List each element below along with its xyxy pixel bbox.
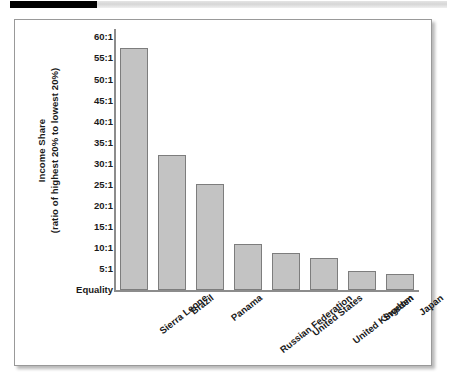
bar-slot (120, 29, 147, 290)
bar[interactable] (386, 274, 413, 290)
y-tick-label: Equality (61, 285, 113, 295)
bar[interactable] (272, 253, 299, 290)
y-tick-label: 45:1 (61, 96, 113, 106)
bar-slot (196, 29, 223, 290)
bar[interactable] (348, 271, 375, 290)
y-tick-label: 40:1 (61, 117, 113, 127)
x-tick-label: Panama (229, 292, 264, 323)
y-tick-label: 25:1 (61, 180, 113, 190)
y-tick-label: 55:1 (61, 53, 113, 63)
header-rules (0, 0, 460, 12)
bar-slot (386, 29, 413, 290)
bar[interactable] (196, 184, 223, 290)
x-tick-label: Japan (417, 292, 445, 318)
bar-slot (272, 29, 299, 290)
y-tick-label: 20:1 (61, 201, 113, 211)
y-tick-label: 15:1 (61, 222, 113, 232)
y-axis-title-line1: Income Share (36, 43, 49, 258)
y-tick-label: 30:1 (61, 159, 113, 169)
y-tick-label: 10:1 (61, 243, 113, 253)
x-tick-label: Brazil (189, 292, 216, 317)
y-tick-label: 35:1 (61, 138, 113, 148)
figure-panel: Income Share (ratio of highest 20% to lo… (14, 19, 432, 366)
bar-slot (348, 29, 375, 290)
black-rule (10, 1, 97, 8)
bar[interactable] (158, 155, 185, 290)
bar[interactable] (310, 258, 337, 290)
y-tick-label: 50:1 (61, 75, 113, 85)
gray-rule (97, 1, 447, 8)
bar[interactable] (234, 244, 261, 290)
bar-slot (310, 29, 337, 290)
x-tick-label: Sweden (381, 292, 416, 323)
bar-chart: Income Share (ratio of highest 20% to lo… (15, 20, 433, 367)
bar[interactable] (120, 48, 147, 290)
bar-slot (158, 29, 185, 290)
bar-slot (234, 29, 261, 290)
x-axis-category-labels: Sierra LeoneBrazilPanamaRussian Federati… (115, 292, 419, 368)
y-tick-label: 5:1 (61, 264, 113, 274)
y-axis-tick-labels: 60:155:150:145:140:135:130:125:120:115:1… (53, 20, 113, 367)
bars-container (115, 29, 419, 290)
y-tick-label: 60:1 (61, 32, 113, 42)
